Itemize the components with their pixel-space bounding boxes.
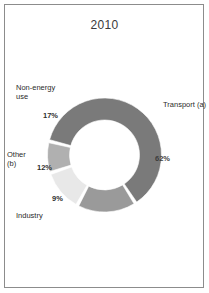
slice-label-non-energy-use-line1: Non-energy bbox=[16, 83, 55, 92]
slice-value-industry: 9% bbox=[52, 194, 63, 203]
donut-slices bbox=[48, 98, 162, 212]
slice-label-other: Other (b) bbox=[7, 150, 26, 168]
slice-value-other: 12% bbox=[37, 163, 52, 172]
slice-label-transport: Transport (a) bbox=[163, 100, 206, 109]
slice-value-non-energy-use: 17% bbox=[43, 111, 58, 120]
slice-value-transport: 62% bbox=[155, 154, 170, 163]
donut-slice-non-energy-use bbox=[79, 185, 134, 212]
slice-label-other-line1: Other bbox=[7, 150, 26, 159]
slice-label-industry: Industry bbox=[16, 211, 43, 220]
donut-svg bbox=[0, 0, 209, 293]
slice-label-non-energy-use-line2: use bbox=[16, 92, 55, 101]
donut-chart: 62% 17% 12% 9% Transport (a) Non-energy … bbox=[0, 0, 209, 293]
slice-label-non-energy-use: Non-energy use bbox=[16, 83, 55, 101]
slice-label-other-line2: (b) bbox=[7, 159, 26, 168]
chart-figure: 2010 62% 17% 12% 9% Transport (a) Non-en… bbox=[0, 0, 209, 293]
